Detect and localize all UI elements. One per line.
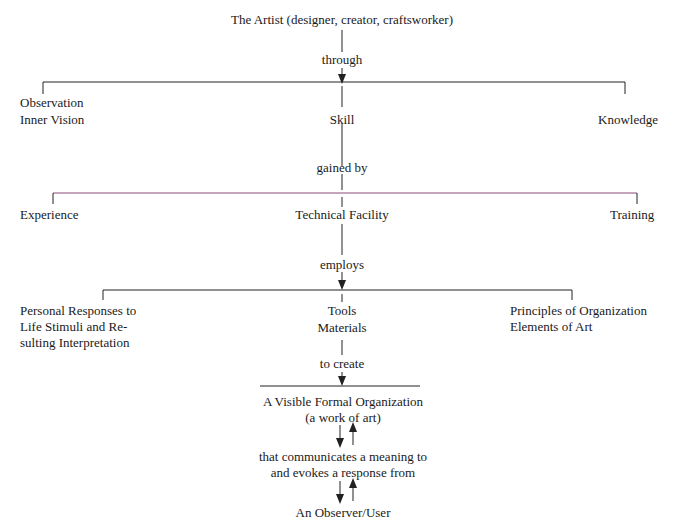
node-personal-responses-2: Life Stimuli and Re- [20, 319, 127, 335]
node-training: Training [610, 207, 654, 223]
node-inner-vision: Inner Vision [20, 112, 84, 128]
node-work-of-art: (a work of art) [305, 410, 380, 426]
node-elements: Elements of Art [510, 319, 592, 335]
label-to-create: to create [320, 356, 364, 372]
node-artist: The Artist (designer, creator, craftswor… [231, 12, 453, 28]
node-observer-user: An Observer/User [296, 505, 391, 521]
label-communicates: that communicates a meaning to [259, 449, 427, 465]
node-experience: Experience [20, 207, 78, 223]
node-skill: Skill [330, 112, 355, 128]
node-tools: Tools [328, 303, 357, 319]
node-materials: Materials [317, 320, 366, 336]
node-observation: Observation [20, 95, 84, 111]
label-employs: employs [320, 257, 364, 273]
node-personal-responses-1: Personal Responses to [20, 303, 136, 319]
label-evokes: and evokes a response from [271, 465, 415, 481]
label-through: through [322, 52, 362, 68]
node-visible-formal-organization: A Visible Formal Organization [263, 394, 423, 410]
node-technical-facility: Technical Facility [295, 207, 388, 223]
node-principles: Principles of Organization [510, 303, 647, 319]
node-knowledge: Knowledge [598, 112, 658, 128]
label-gained-by: gained by [317, 160, 368, 176]
node-personal-responses-3: sulting Interpretation [20, 335, 129, 351]
